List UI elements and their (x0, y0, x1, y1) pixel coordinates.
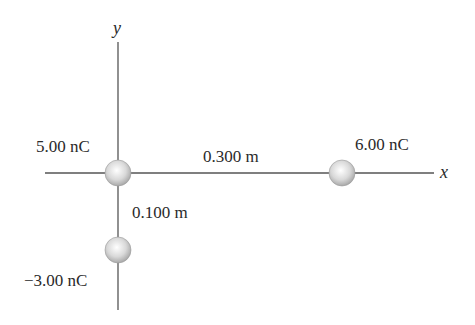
charge-label-x: 6.00 nC (355, 136, 409, 153)
charge-sphere-x (329, 160, 355, 186)
y-axis-label: y (113, 19, 121, 37)
charge-label-y: −3.00 nC (24, 272, 87, 289)
distance-label-y: 0.100 m (132, 204, 188, 221)
charge-label-origin: 5.00 nC (36, 138, 90, 155)
distance-label-x: 0.300 m (203, 148, 259, 165)
charge-sphere-y (105, 237, 131, 263)
charge-sphere-origin (105, 160, 131, 186)
x-axis-label: x (440, 163, 448, 181)
